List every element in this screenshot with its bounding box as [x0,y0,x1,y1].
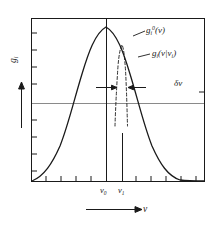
y-axis-title: gi [9,57,19,63]
x-axis-title: ν [143,205,147,215]
x-tick-label-nu0: ν0 [100,186,107,196]
curve-label-envelope: gi0(ν) [146,26,165,36]
x-tick-label-nu1: ν1 [118,186,125,196]
y-axis-arrow [19,82,25,128]
width-label-delta-nu: δν [174,79,182,88]
curve-label-packet: gi(ν|νi) [152,49,176,59]
lineshape-figure: gi0(ν) gi(ν|νi) δν ν0 ν1 ν gi [0,0,212,229]
x-axis-arrow [86,207,142,213]
plot-frame [32,19,205,182]
